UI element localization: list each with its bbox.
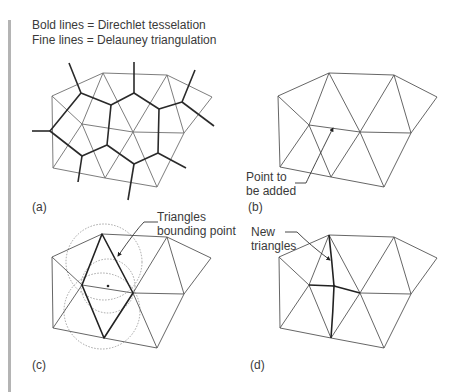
annotation-new-triangles: New triangles [251,225,296,253]
leader-arrow [118,222,158,256]
panel-b-diagram [278,73,437,187]
new-point [107,285,110,288]
annotation-point-to-be-added: Point to be added [246,170,296,198]
panel-b-label: (b) [248,200,263,214]
delaunay-triangulation [52,73,212,187]
panel-a-label: (a) [32,200,47,214]
triangulation-mesh [278,73,437,187]
panel-c-diagram [52,222,211,349]
triangulation-mesh [279,235,437,348]
panel-c-label: (c) [32,358,46,372]
panel-a-diagram [32,62,214,200]
annotation-triangles-bounding-point: Triangles bounding point [157,210,236,238]
panel-d-label: (d) [250,358,265,372]
panel-d-diagram [279,232,437,348]
new-point [333,285,336,288]
dirichlet-tesselation [32,62,214,200]
diagram-canvas [0,0,458,392]
